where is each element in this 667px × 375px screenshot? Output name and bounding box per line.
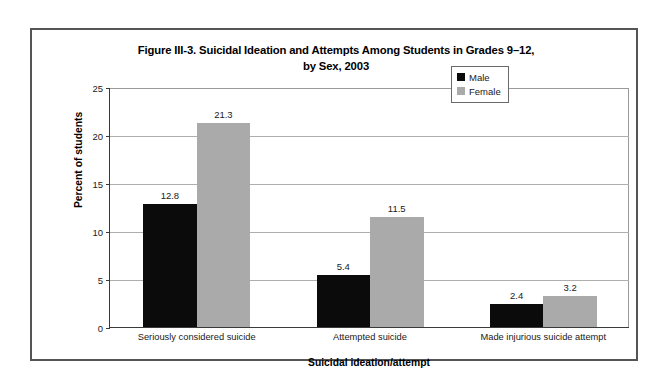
- bar-female-3: 3.2: [543, 296, 597, 327]
- bar-value-label: 12.8: [161, 190, 180, 201]
- y-tick-label: 20: [92, 131, 103, 142]
- chart-title-line-2: by Sex, 2003: [54, 58, 618, 74]
- bar-value-label: 21.3: [214, 109, 233, 120]
- category-label: Attempted suicide: [283, 332, 456, 342]
- chart-title: Figure III-3. Suicidal Ideation and Atte…: [54, 42, 618, 74]
- y-tick-label: 25: [92, 83, 103, 94]
- male-swatch-icon: [457, 73, 465, 81]
- y-tick-label: 0: [98, 323, 103, 334]
- gridline: [110, 184, 629, 185]
- legend-item-male: Male: [457, 70, 501, 84]
- bar-male-1: 12.8: [143, 204, 197, 327]
- y-tick-label: 15: [92, 179, 103, 190]
- female-swatch-icon: [457, 87, 465, 95]
- category-label: Made injurious suicide attempt: [457, 332, 630, 342]
- figure-frame: Figure III-3. Suicidal Ideation and Atte…: [30, 28, 638, 361]
- category-label: Seriously considered suicide: [110, 332, 283, 342]
- chart-title-line-1: Figure III-3. Suicidal Ideation and Atte…: [54, 42, 618, 58]
- legend-label-female: Female: [469, 86, 501, 97]
- y-tick-label: 10: [92, 227, 103, 238]
- y-tick-label: 5: [98, 275, 103, 286]
- bar-value-label: 5.4: [337, 261, 350, 272]
- legend: Male Female: [451, 66, 509, 103]
- y-tick-mark: [106, 136, 110, 137]
- x-axis-title: Suicidal ideation/attempt: [109, 357, 629, 368]
- y-tick-mark: [106, 280, 110, 281]
- y-axis-title: Percent of students: [73, 112, 84, 208]
- bar-male-2: 5.4: [317, 275, 371, 327]
- y-tick-mark: [106, 328, 110, 329]
- y-tick-mark: [106, 88, 110, 89]
- bar-male-3: 2.4: [490, 304, 544, 327]
- legend-item-female: Female: [457, 84, 501, 98]
- bar-value-label: 2.4: [510, 290, 523, 301]
- bar-value-label: 3.2: [563, 282, 576, 293]
- bar-female-1: 21.3: [197, 123, 251, 327]
- bar-female-2: 11.5: [370, 217, 424, 327]
- y-tick-mark: [106, 184, 110, 185]
- plot-area: 0510152025 12.821.35.411.52.43.2 Serious…: [109, 88, 629, 328]
- y-tick-mark: [106, 232, 110, 233]
- bar-value-label: 11.5: [388, 203, 406, 214]
- legend-label-male: Male: [469, 72, 490, 83]
- gridline: [110, 136, 629, 137]
